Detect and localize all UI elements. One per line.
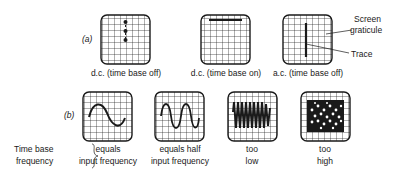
caption-low-line2: low xyxy=(222,156,282,167)
screen-ac-timebase-off xyxy=(283,15,352,64)
screen-dc-timebase-on xyxy=(201,15,250,64)
caption-low-line1: too xyxy=(222,144,282,155)
annotation-graticule: graticule xyxy=(350,25,382,36)
caption-half-line2: input frequency xyxy=(140,156,220,167)
caption-ac-timebase-off: a.c. (time base off) xyxy=(266,68,350,79)
caption-equals-line1: equals xyxy=(68,144,148,155)
screen-dc-timebase-off xyxy=(101,15,150,64)
caption-high-line2: high xyxy=(295,156,355,167)
caption-high-line1: too xyxy=(295,144,355,155)
caption-dc-timebase-off: d.c. (time base off) xyxy=(85,68,167,79)
caption-half-line1: equals half xyxy=(140,144,220,155)
side-label-line1: Time base xyxy=(14,144,53,155)
annotation-screen: Screen xyxy=(354,14,381,25)
screen-equals-input xyxy=(83,92,132,141)
screen-too-low xyxy=(228,92,277,141)
side-label-line2: frequency xyxy=(16,156,53,167)
screen-too-high xyxy=(301,92,350,141)
screen-equals-half xyxy=(155,92,204,141)
annotation-trace: Trace xyxy=(351,49,372,60)
row-b-label: (b) xyxy=(64,110,74,120)
row-a-label: (a) xyxy=(82,34,92,44)
caption-equals-line2: input frequency xyxy=(68,156,148,167)
caption-dc-timebase-on: d.c. (time base on) xyxy=(183,68,269,79)
